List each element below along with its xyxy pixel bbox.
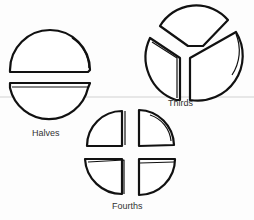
halves-label: Halves [32,128,60,138]
third-top-piece [160,5,228,46]
thirds-label: Thirds [168,98,193,108]
fourth-bottom-left-piece [85,159,122,194]
third-left-piece [146,38,180,100]
fractions-artwork [0,0,254,220]
half-bottom-piece [10,83,90,119]
fractions-diagram: Halves Thirds Fourths [0,0,254,220]
fourth-bottom-right-piece [139,159,175,195]
thirds-circle [146,5,243,100]
fourth-top-right-piece [139,110,174,146]
fourths-label: Fourths [112,201,143,211]
fourth-top-left-piece [87,111,122,146]
halves-circle [10,30,90,119]
half-top-piece [10,30,90,72]
fourths-circle [85,110,175,195]
